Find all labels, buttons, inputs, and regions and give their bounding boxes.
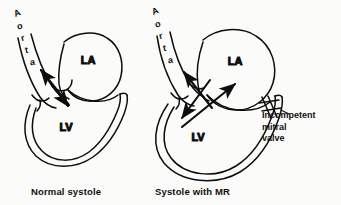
aorta-letter: a	[29, 57, 35, 67]
left-ventricle-label: LV	[59, 121, 73, 133]
lv-apex-wall	[275, 95, 282, 97]
annotation-line: Incompetent	[262, 110, 316, 122]
aorta-letter: a	[167, 55, 173, 65]
aorta-outer-wall	[18, 38, 56, 108]
panel-normal-systole: LA LV	[18, 33, 127, 166]
annotation-line: valve	[262, 133, 316, 145]
lv-apex-wall	[120, 93, 127, 95]
left-atrium-outline	[64, 33, 122, 101]
aortic-valve-cusp	[176, 98, 179, 109]
left-atrium-outline	[203, 30, 275, 110]
left-atrium-label: LA	[81, 54, 96, 66]
aortic-valve-cusp	[37, 100, 40, 111]
caption-systole-with-mr: Systole with MR	[155, 186, 230, 197]
left-ventricle-label: LV	[191, 131, 205, 143]
panel-systole-with-mr: LA LV	[156, 30, 289, 181]
incompetent-mitral-valve-annotation: Incompetent mitral valve	[262, 110, 316, 145]
av-junction-line	[68, 90, 118, 101]
caption-normal-systole: Normal systole	[31, 186, 101, 197]
left-atrium-label: LA	[228, 55, 243, 67]
figure-root: LA LV	[0, 0, 341, 205]
heart-diagram-canvas: LA LV	[0, 0, 341, 205]
annotation-line: mitral	[262, 122, 316, 134]
